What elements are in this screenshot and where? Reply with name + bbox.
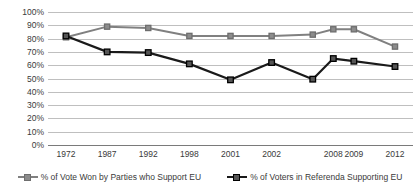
data-point-marker <box>392 44 397 49</box>
y-tick-label: 10% <box>0 128 44 137</box>
y-tick-label: 30% <box>0 101 44 110</box>
data-point-marker <box>228 33 233 38</box>
x-tick-label: 2008 <box>324 149 343 159</box>
data-point-marker <box>331 56 337 62</box>
series-line <box>66 36 395 80</box>
data-point-marker <box>351 27 356 32</box>
legend-item[interactable]: % of Voters in Referenda Supporting EU <box>227 172 402 182</box>
x-tick-label: 1992 <box>139 149 158 159</box>
data-point-marker <box>310 32 315 37</box>
legend-label: % of Vote Won by Parties who Support EU <box>41 172 201 182</box>
chart-container: 100%90%80%70%60%50%40%30%20%10%0% 197219… <box>0 0 420 193</box>
x-tick-label: 2009 <box>344 149 363 159</box>
y-tick-label: 0% <box>0 141 44 150</box>
x-tick-label: 1998 <box>180 149 199 159</box>
data-point-marker <box>310 76 316 82</box>
data-point-marker <box>269 33 274 38</box>
x-tick-label: 2002 <box>262 149 281 159</box>
legend-swatch-icon <box>18 173 38 182</box>
data-point-marker <box>187 61 193 67</box>
y-tick-label: 100% <box>0 8 44 17</box>
y-tick-label: 60% <box>0 61 44 70</box>
data-point-marker <box>146 25 151 30</box>
data-point-marker <box>104 49 110 55</box>
x-tick-label: 1987 <box>98 149 117 159</box>
data-point-marker <box>228 77 234 83</box>
legend-swatch-icon <box>227 173 247 182</box>
x-tick-label: 1972 <box>57 149 76 159</box>
x-tick-label: 2012 <box>386 149 405 159</box>
y-tick-label: 20% <box>0 114 44 123</box>
y-tick-label: 50% <box>0 75 44 84</box>
y-tick-label: 80% <box>0 35 44 44</box>
x-tick-label: 2001 <box>221 149 240 159</box>
legend-label: % of Voters in Referenda Supporting EU <box>250 172 402 182</box>
data-point-marker <box>187 33 192 38</box>
y-tick-label: 70% <box>0 48 44 57</box>
gridline-0 <box>48 145 413 146</box>
data-point-marker <box>351 58 357 64</box>
data-point-marker <box>63 33 69 39</box>
data-point-marker <box>269 60 275 66</box>
data-point-marker <box>105 24 110 29</box>
x-axis-tick-labels: 197219871992199820012002200820092012 <box>48 149 413 163</box>
plot-area <box>48 12 413 145</box>
y-tick-label: 40% <box>0 88 44 97</box>
series-layer <box>48 12 413 145</box>
data-point-marker <box>145 50 151 56</box>
legend-item[interactable]: % of Vote Won by Parties who Support EU <box>18 172 201 182</box>
data-point-marker <box>392 64 398 70</box>
y-tick-label: 90% <box>0 21 44 30</box>
data-point-marker <box>331 27 336 32</box>
chart-legend: % of Vote Won by Parties who Support EU%… <box>0 172 420 182</box>
